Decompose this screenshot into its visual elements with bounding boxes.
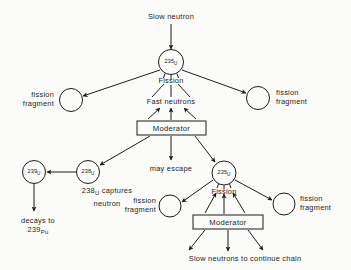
- fragment-circle-bottom-left: [159, 195, 181, 217]
- label-moderator-bottom: Moderator: [193, 218, 263, 227]
- label-fission-top: Fission: [146, 76, 196, 85]
- nuclide-mass: 235: [217, 169, 227, 175]
- label-moderator-top: Moderator: [137, 124, 206, 133]
- nuclide-element: U: [91, 171, 94, 176]
- fission-chain-diagram: Slow neutron 235U Fission Fast neutrons …: [0, 0, 351, 270]
- fragment-circle-top-left: [60, 89, 83, 112]
- nuclide-element: U: [37, 171, 40, 176]
- label-fission-fragment-bottom-right: fissionfragment: [300, 194, 350, 213]
- caption-mass: 239: [28, 225, 41, 234]
- fast-neutron-line: [178, 84, 190, 97]
- label-fission-fragment-top-left: fissionfragment: [2, 90, 54, 109]
- nuclide-mass: 238: [81, 168, 91, 174]
- label-fission-fragment-bottom-left: fissionfragment: [104, 196, 156, 215]
- arrow-slow-neutron-out: [248, 230, 263, 250]
- nuclide-mass: 239: [27, 168, 37, 174]
- label-fast-neutrons: Fast neutrons: [131, 97, 211, 106]
- nuclide-u238: 238U: [69, 168, 107, 176]
- arrow-slow-neutron-out: [189, 230, 205, 250]
- label-slow-neutrons-chain: Slow neutrons to continue chain: [150, 254, 340, 263]
- nuclide-u235-top: 235U: [151, 58, 191, 66]
- caption-decays-to: decays to 239Pu: [2, 216, 74, 238]
- label-slow-neutron: Slow neutron: [131, 12, 211, 21]
- arrow-fast-neutron-to-moderator: [148, 108, 160, 119]
- caption-mass: 238: [82, 186, 95, 195]
- label-fission-bottom: Fission: [199, 187, 249, 196]
- fast-neutron-line: [152, 84, 164, 97]
- arrow-fast-neutron-to-moderator: [184, 108, 196, 119]
- arrow-moderator-to-u235-bottom: [195, 136, 215, 162]
- nuclide-u239: 239U: [15, 168, 53, 176]
- nuclide-element: U: [174, 61, 177, 66]
- fragment-circle-bottom-right: [273, 193, 295, 215]
- label-may-escape: may escape: [134, 164, 208, 173]
- fragment-circle-top-right: [247, 87, 270, 110]
- nuclide-u235-bottom: 235U: [205, 169, 243, 177]
- label-fission-fragment-top-right: fissionfragment: [276, 88, 336, 107]
- nuclide-mass: 235: [164, 58, 174, 64]
- nuclide-element: U: [227, 172, 230, 177]
- caption-line1: decays to: [21, 216, 55, 225]
- caption-rest: captures: [100, 186, 133, 195]
- arrow-moderator-to-u238: [100, 136, 150, 165]
- caption-element: Pu: [41, 230, 49, 236]
